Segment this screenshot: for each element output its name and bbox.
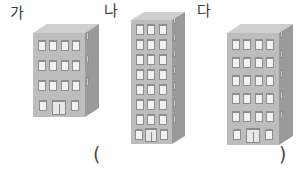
building-entrance-door xyxy=(246,128,260,143)
window xyxy=(147,99,155,110)
window xyxy=(232,39,240,50)
window xyxy=(61,60,69,71)
side-window xyxy=(86,78,89,86)
window xyxy=(61,40,69,51)
building-label-2: 다 xyxy=(197,4,211,19)
building-entrance-door xyxy=(52,100,66,115)
window xyxy=(255,39,263,50)
building-na xyxy=(131,12,185,144)
window xyxy=(136,39,144,50)
building-label-1: 나 xyxy=(104,4,118,19)
window xyxy=(265,129,273,140)
building-floor xyxy=(134,112,169,127)
building-floor xyxy=(36,75,82,95)
side-window xyxy=(173,66,176,74)
building-entrance-door xyxy=(145,128,157,142)
window xyxy=(71,100,79,111)
side-window xyxy=(173,99,176,107)
window xyxy=(266,39,274,50)
side-window xyxy=(173,82,176,90)
window xyxy=(136,69,144,80)
building-floor xyxy=(230,53,276,71)
side-window xyxy=(173,115,176,123)
building-floor xyxy=(134,52,169,67)
building-floor xyxy=(36,35,82,55)
building-floor xyxy=(230,89,276,107)
window xyxy=(38,80,46,91)
window xyxy=(232,57,240,68)
building-floor xyxy=(230,71,276,89)
window xyxy=(159,54,167,65)
side-window xyxy=(280,70,283,78)
window xyxy=(233,129,241,140)
window xyxy=(72,60,80,71)
side-window xyxy=(280,91,283,99)
window xyxy=(38,40,46,51)
window xyxy=(243,57,251,68)
window xyxy=(136,54,144,65)
building-floor xyxy=(134,127,169,142)
building-ga xyxy=(33,24,99,117)
window xyxy=(159,114,167,125)
window xyxy=(266,111,274,122)
window xyxy=(49,80,57,91)
illustration-canvas: 가나다() xyxy=(0,0,305,172)
window xyxy=(147,24,155,35)
window xyxy=(147,84,155,95)
window xyxy=(243,75,251,86)
window xyxy=(243,39,251,50)
building-floor xyxy=(134,67,169,82)
window xyxy=(255,93,263,104)
window xyxy=(159,69,167,80)
window xyxy=(147,54,155,65)
building-label-0: 가 xyxy=(10,6,24,21)
window xyxy=(232,93,240,104)
window xyxy=(159,99,167,110)
window xyxy=(147,39,155,50)
close-paren: ) xyxy=(279,145,286,164)
side-window xyxy=(173,49,176,57)
window xyxy=(49,40,57,51)
building-da xyxy=(227,24,293,145)
building-facade xyxy=(33,33,85,117)
building-floor xyxy=(230,107,276,125)
side-window xyxy=(173,33,176,41)
window xyxy=(61,80,69,91)
window xyxy=(255,111,263,122)
side-window xyxy=(86,32,89,40)
window xyxy=(243,111,251,122)
window xyxy=(232,111,240,122)
window xyxy=(136,24,144,35)
window xyxy=(160,129,168,140)
building-floor xyxy=(134,22,169,37)
window xyxy=(266,75,274,86)
building-floor xyxy=(134,82,169,97)
open-paren: ( xyxy=(93,145,100,164)
window xyxy=(232,75,240,86)
window xyxy=(243,93,251,104)
window xyxy=(136,114,144,125)
building-side-wall xyxy=(85,24,99,117)
side-window xyxy=(86,55,89,63)
side-window xyxy=(280,111,283,119)
window xyxy=(135,129,143,140)
window xyxy=(255,57,263,68)
window xyxy=(136,84,144,95)
window xyxy=(72,40,80,51)
building-facade xyxy=(131,20,172,144)
building-floor xyxy=(36,55,82,75)
building-side-wall xyxy=(279,24,293,145)
window xyxy=(136,99,144,110)
window xyxy=(72,80,80,91)
building-floor xyxy=(134,37,169,52)
window xyxy=(38,60,46,71)
building-floor xyxy=(134,97,169,112)
building-facade xyxy=(227,33,279,145)
window xyxy=(266,57,274,68)
window xyxy=(159,24,167,35)
building-floor xyxy=(230,125,276,143)
window xyxy=(39,100,47,111)
window xyxy=(147,69,155,80)
window xyxy=(159,84,167,95)
window xyxy=(147,114,155,125)
